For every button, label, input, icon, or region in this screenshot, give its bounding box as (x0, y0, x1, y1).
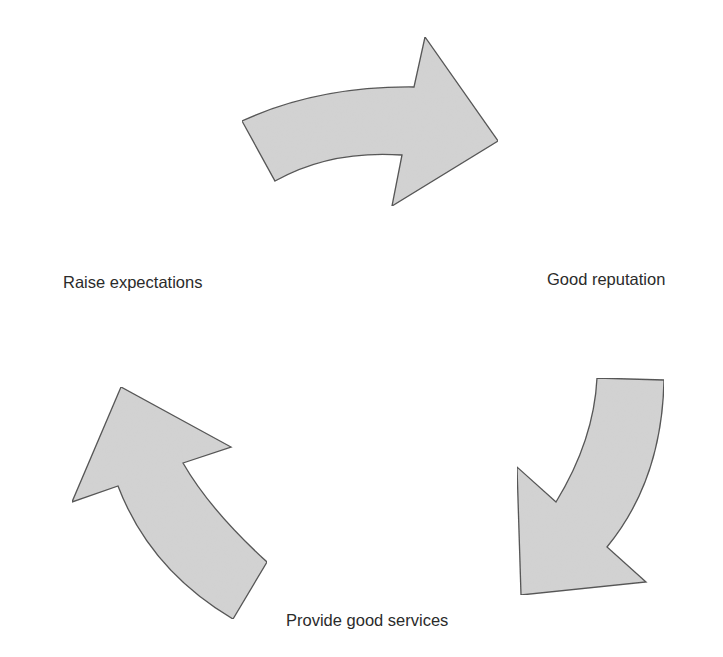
node-label-raise-expectations: Raise expectations (63, 274, 202, 291)
node-label-provide-good-services: Provide good services (286, 612, 448, 629)
curved-arrow-down-left-icon (517, 378, 664, 595)
curved-arrow-right-icon (242, 37, 498, 206)
node-label-good-reputation: Good reputation (547, 271, 665, 288)
curved-arrow-up-left-icon (72, 387, 267, 619)
cycle-diagram: Raise expectations Good reputation Provi… (0, 0, 723, 657)
